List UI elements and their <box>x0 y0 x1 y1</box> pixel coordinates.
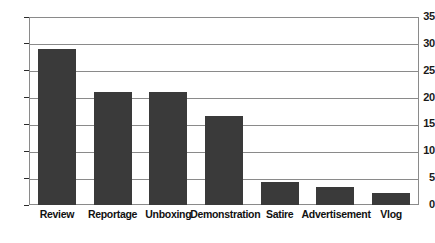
y-axis-tick <box>24 43 29 44</box>
bar <box>205 116 243 205</box>
bar <box>261 182 299 205</box>
y-axis-tick <box>24 151 29 152</box>
x-axis-labels: ReviewReportageUnboxingDemonstrationSati… <box>29 208 419 230</box>
y-axis-tick-label: 35 <box>414 11 435 22</box>
bar <box>94 92 132 205</box>
bars-layer <box>29 17 419 205</box>
y-axis-tick-label: 10 <box>414 145 435 156</box>
y-axis-tick-label: 30 <box>414 38 435 49</box>
y-axis-tick-label: 0 <box>414 199 435 210</box>
bar <box>316 187 354 205</box>
y-axis-tick-label: 20 <box>414 92 435 103</box>
bar <box>38 49 76 205</box>
y-axis-tick-label: 5 <box>414 172 435 183</box>
y-axis-tick <box>24 205 29 206</box>
y-axis <box>0 0 29 243</box>
x-axis-tick-label: Vlog <box>357 208 425 222</box>
bar-chart: ReviewReportageUnboxingDemonstrationSati… <box>0 0 435 243</box>
y-axis-tick <box>24 17 29 18</box>
y-axis-tick <box>24 178 29 179</box>
y-axis-tick <box>24 97 29 98</box>
y-axis-tick-label: 25 <box>414 65 435 76</box>
bar <box>149 92 187 205</box>
y-axis-tick-label: 15 <box>414 118 435 129</box>
bar <box>372 193 410 205</box>
y-axis-tick <box>24 70 29 71</box>
y-axis-tick <box>24 124 29 125</box>
